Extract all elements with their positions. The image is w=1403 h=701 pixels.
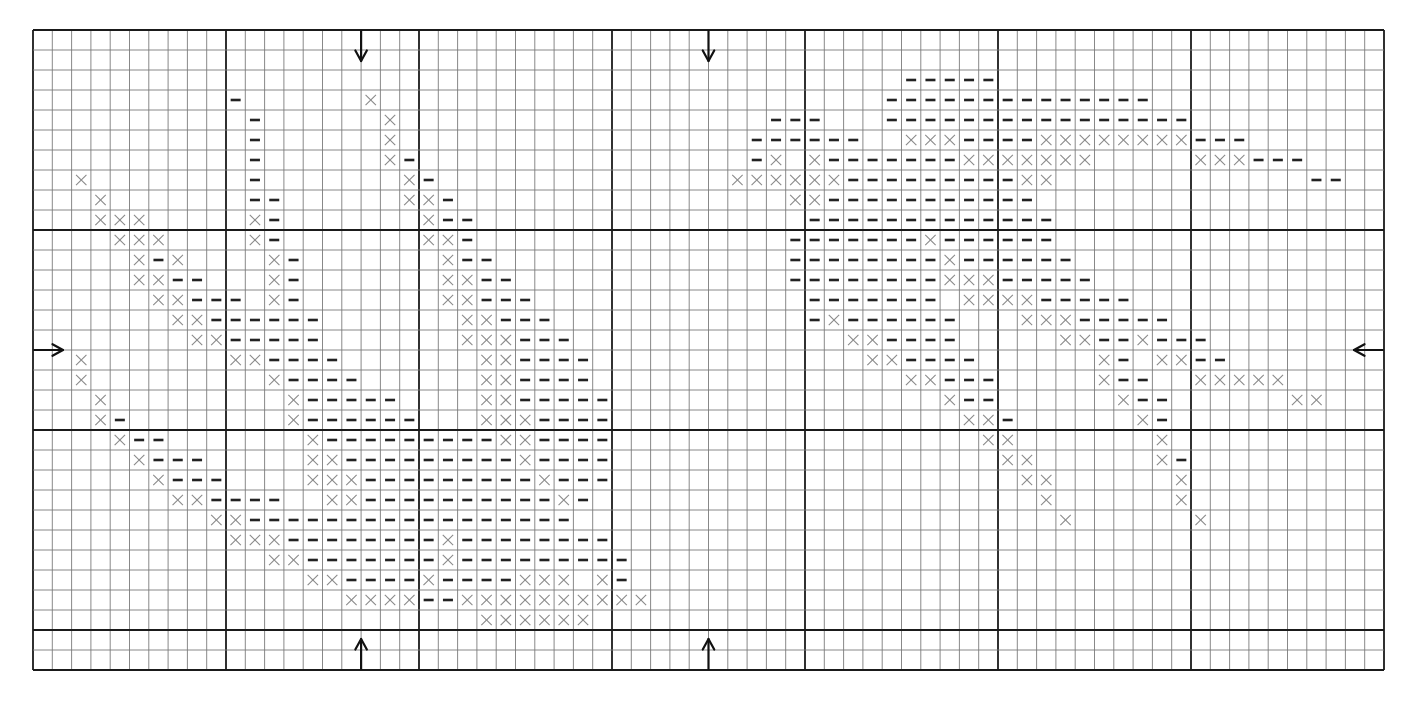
dash-stitch-symbol xyxy=(211,499,221,502)
cross-stitch-symbol xyxy=(250,235,260,245)
cross-stitch-symbol xyxy=(867,335,877,345)
cross-stitch-symbol xyxy=(1080,155,1090,165)
dash-stitch-symbol xyxy=(597,419,607,422)
dash-stitch-symbol xyxy=(983,99,993,102)
dash-stitch-symbol xyxy=(1138,379,1148,382)
cross-stitch-symbol xyxy=(1002,295,1012,305)
cross-stitch-symbol xyxy=(809,175,819,185)
dash-stitch-symbol xyxy=(366,399,376,402)
dash-stitch-symbol xyxy=(964,239,974,242)
dash-stitch-symbol xyxy=(211,299,221,302)
dash-stitch-symbol xyxy=(1215,139,1225,142)
dash-stitch-symbol xyxy=(269,239,279,242)
dash-stitch-symbol xyxy=(269,359,279,362)
dash-stitch-symbol xyxy=(308,559,318,562)
cross-stitch-symbol xyxy=(269,375,279,385)
dash-stitch-symbol xyxy=(404,579,414,582)
cross-stitch-symbol xyxy=(501,375,511,385)
dash-stitch-symbol xyxy=(559,519,569,522)
cross-stitch-symbol xyxy=(1022,455,1032,465)
dash-stitch-symbol xyxy=(346,439,356,442)
dash-stitch-symbol xyxy=(482,299,492,302)
dash-stitch-symbol xyxy=(597,439,607,442)
dash-stitch-symbol xyxy=(1022,99,1032,102)
dash-stitch-symbol xyxy=(153,439,163,442)
cross-stitch-chart xyxy=(0,0,1403,701)
cross-stitch-symbol xyxy=(153,275,163,285)
cross-stitch-symbol xyxy=(95,215,105,225)
dash-stitch-symbol xyxy=(829,239,839,242)
dash-stitch-symbol xyxy=(250,119,260,122)
cross-stitch-symbol xyxy=(346,475,356,485)
cross-stitch-symbol xyxy=(1022,175,1032,185)
dash-stitch-symbol xyxy=(289,259,299,262)
dash-stitch-symbol xyxy=(848,159,858,162)
dash-stitch-symbol xyxy=(810,259,820,262)
cross-stitch-symbol xyxy=(983,295,993,305)
dash-stitch-symbol xyxy=(520,319,530,322)
dash-stitch-symbol xyxy=(925,359,935,362)
cross-stitch-symbol xyxy=(501,415,511,425)
dash-stitch-symbol xyxy=(424,519,434,522)
dash-stitch-symbol xyxy=(462,459,472,462)
dash-stitch-symbol xyxy=(269,219,279,222)
dash-stitch-symbol xyxy=(868,299,878,302)
cross-stitch-symbol xyxy=(1157,435,1167,445)
cross-stitch-symbol xyxy=(327,575,337,585)
cross-stitch-symbol xyxy=(790,195,800,205)
dash-stitch-symbol xyxy=(1041,259,1051,262)
cross-stitch-symbol xyxy=(385,595,395,605)
dash-stitch-symbol xyxy=(1157,339,1167,342)
cross-stitch-symbol xyxy=(192,335,202,345)
dash-stitch-symbol xyxy=(848,299,858,302)
dash-stitch-symbol xyxy=(1041,239,1051,242)
dash-stitch-symbol xyxy=(385,499,395,502)
dash-stitch-symbol xyxy=(501,499,511,502)
cross-stitch-symbol xyxy=(983,415,993,425)
dash-stitch-symbol xyxy=(887,299,897,302)
cross-stitch-symbol xyxy=(308,455,318,465)
cross-stitch-symbol xyxy=(636,595,646,605)
dash-stitch-symbol xyxy=(829,199,839,202)
dash-stitch-symbol xyxy=(1157,419,1167,422)
dash-stitch-symbol xyxy=(848,199,858,202)
dash-stitch-symbol xyxy=(578,459,588,462)
dash-stitch-symbol xyxy=(1003,199,1013,202)
dash-stitch-symbol xyxy=(385,519,395,522)
dash-stitch-symbol xyxy=(404,539,414,542)
dash-stitch-symbol xyxy=(443,439,453,442)
dash-stitch-symbol xyxy=(868,239,878,242)
dash-stitch-symbol xyxy=(1118,299,1128,302)
dash-stitch-symbol xyxy=(1061,279,1071,282)
dash-stitch-symbol xyxy=(501,559,511,562)
cross-stitch-symbol xyxy=(481,375,491,385)
cross-stitch-symbol xyxy=(945,395,955,405)
dash-stitch-symbol xyxy=(559,399,569,402)
dash-stitch-symbol xyxy=(366,479,376,482)
dash-stitch-symbol xyxy=(887,259,897,262)
dash-stitch-symbol xyxy=(829,279,839,282)
dash-stitch-symbol xyxy=(925,79,935,82)
dash-stitch-symbol xyxy=(925,119,935,122)
dash-stitch-symbol xyxy=(578,419,588,422)
dash-stitch-symbol xyxy=(887,239,897,242)
cross-stitch-symbol xyxy=(462,595,472,605)
cross-stitch-symbol xyxy=(1215,155,1225,165)
dash-stitch-symbol xyxy=(790,279,800,282)
dash-stitch-symbol xyxy=(289,299,299,302)
cross-stitch-symbol xyxy=(192,315,202,325)
cross-stitch-symbol xyxy=(983,155,993,165)
dash-stitch-symbol xyxy=(964,359,974,362)
dash-stitch-symbol xyxy=(269,499,279,502)
dash-stitch-symbol xyxy=(173,479,183,482)
dash-stitch-symbol xyxy=(462,259,472,262)
dash-stitch-symbol xyxy=(578,559,588,562)
dash-stitch-symbol xyxy=(539,399,549,402)
cross-stitch-symbol xyxy=(423,575,433,585)
cross-stitch-symbol xyxy=(1273,375,1283,385)
dash-stitch-symbol xyxy=(945,219,955,222)
cross-stitch-symbol xyxy=(925,235,935,245)
dash-stitch-symbol xyxy=(617,579,627,582)
dash-stitch-symbol xyxy=(404,419,414,422)
dash-stitch-symbol xyxy=(404,439,414,442)
